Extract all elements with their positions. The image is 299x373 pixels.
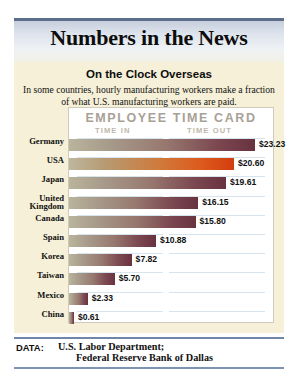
bar-label: Spain — [14, 233, 64, 242]
bar-label: Korea — [14, 252, 64, 261]
chart-row: UnitedKingdom$16.15 — [14, 195, 284, 214]
chart-row: USA$20.60 — [14, 156, 284, 175]
bar-chart: Germany$23.23USA$20.60Japan$19.61UnitedK… — [14, 137, 284, 329]
infographic-body: On the Clock Overseas In some countries,… — [14, 62, 284, 333]
bar-label: UnitedKingdom — [14, 194, 64, 211]
bar-label: Mexico — [14, 291, 64, 300]
bar — [69, 139, 255, 151]
bar-value-label: $20.60 — [238, 158, 264, 168]
time-in-label: TIME IN — [95, 126, 131, 135]
bar-value-label: $2.33 — [92, 293, 114, 303]
bar-label: USA — [14, 156, 64, 165]
bar-value-label: $7.82 — [136, 254, 158, 264]
time-out-label: TIME OUT — [187, 126, 232, 135]
bar — [69, 177, 226, 189]
chart-row: Canada$15.80 — [14, 214, 284, 233]
bar-value-label: $23.23 — [259, 139, 285, 149]
bar-label: Germany — [14, 137, 64, 146]
bar-label: Taiwan — [14, 271, 64, 280]
chart-row: Germany$23.23 — [14, 137, 284, 156]
chart-description: In some countries, hourly manufacturing … — [20, 84, 278, 107]
chart-row: Taiwan$5.70 — [14, 271, 284, 290]
chart-row: China$0.61 — [14, 310, 284, 329]
title-banner: Numbers in the News — [14, 18, 284, 65]
infographic-page: Numbers in the News On the Clock Oversea… — [0, 0, 299, 373]
footer-rule-bottom — [14, 367, 284, 369]
footer-source-line2: Federal Reserve Bank of Dallas — [76, 352, 213, 363]
bar — [69, 254, 132, 266]
bar-value-label: $16.15 — [202, 197, 228, 207]
chart-row: Japan$19.61 — [14, 175, 284, 194]
bar-value-label: $19.61 — [230, 177, 256, 187]
bar-value-label: $10.88 — [160, 235, 186, 245]
footer-data-label: DATA: — [16, 342, 44, 353]
page-title: Numbers in the News — [14, 25, 284, 51]
bar-value-label: $15.80 — [200, 216, 226, 226]
bar-label: Canada — [14, 214, 64, 223]
footer-source-line1: U.S. Labor Department; — [58, 341, 164, 352]
bar — [69, 293, 88, 305]
bar — [69, 235, 156, 247]
bar-value-label: $0.61 — [78, 312, 100, 322]
bar — [69, 273, 115, 285]
time-card-title: EMPLOYEE TIME CARD — [69, 111, 273, 125]
bar — [69, 158, 234, 170]
bar — [69, 312, 74, 324]
chart-row: Spain$10.88 — [14, 233, 284, 252]
footer: DATA: U.S. Labor Department; Federal Res… — [14, 337, 284, 369]
bar-label: China — [14, 310, 64, 319]
bar-label: Japan — [14, 175, 64, 184]
chart-subtitle: On the Clock Overseas — [14, 68, 284, 80]
bar — [69, 216, 196, 228]
bar — [69, 197, 198, 209]
bar-value-label: $5.70 — [119, 273, 141, 283]
chart-row: Korea$7.82 — [14, 252, 284, 271]
chart-row: Mexico$2.33 — [14, 291, 284, 310]
